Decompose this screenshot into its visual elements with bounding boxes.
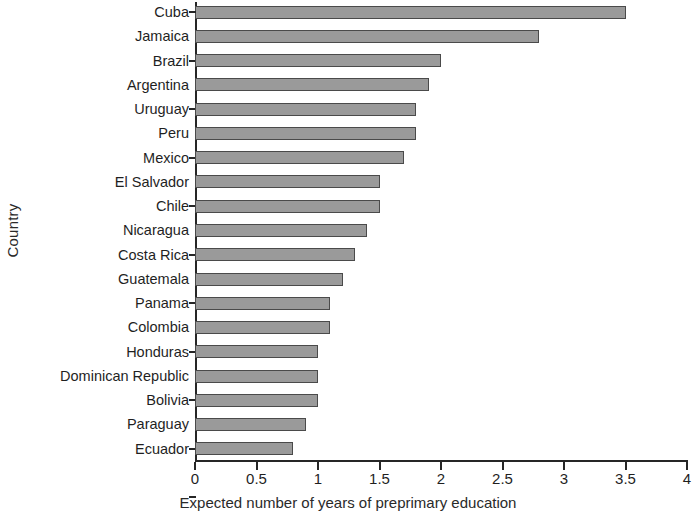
bar xyxy=(195,321,330,334)
x-axis-tick-label: 0 xyxy=(175,470,215,487)
bar-row xyxy=(195,340,687,364)
x-axis-title: Expected number of years of preprimary e… xyxy=(0,494,696,511)
bar xyxy=(195,78,429,91)
y-axis-tick-label: Argentina xyxy=(26,73,189,97)
y-axis-tick-label: Panama xyxy=(26,291,189,315)
x-axis-tick xyxy=(379,462,381,470)
bar xyxy=(195,200,380,213)
x-axis-tick xyxy=(256,462,258,470)
y-axis-tick-label: Jamaica xyxy=(26,24,189,48)
y-axis-tick-label: El Salvador xyxy=(26,170,189,194)
y-axis-tick-label: Bolivia xyxy=(26,388,189,412)
bar xyxy=(195,248,355,261)
x-axis-tick-label: 3 xyxy=(544,470,584,487)
bar xyxy=(195,54,441,67)
y-axis-tick-label: Ecuador xyxy=(26,437,189,461)
bar-row xyxy=(195,364,687,388)
y-axis-tick-label: Nicaragua xyxy=(26,218,189,242)
y-axis-tick-label: Mexico xyxy=(26,146,189,170)
bar xyxy=(195,151,404,164)
x-axis-tick-label: 1 xyxy=(298,470,338,487)
bar xyxy=(195,224,367,237)
x-axis-tick-label: 1.5 xyxy=(360,470,400,487)
bar-chart-figure: Country CubaJamaicaBrazilArgentinaUrugua… xyxy=(0,0,696,522)
bar-row xyxy=(195,170,687,194)
plot-area xyxy=(195,0,687,461)
bar xyxy=(195,103,416,116)
bar-row xyxy=(195,291,687,315)
bar xyxy=(195,345,318,358)
bar xyxy=(195,273,343,286)
bar-row xyxy=(195,315,687,339)
x-axis-tick xyxy=(440,462,442,470)
bar-row xyxy=(195,97,687,121)
bar-row xyxy=(195,24,687,48)
y-axis-title-label: Country xyxy=(5,204,22,258)
y-axis-title: Country xyxy=(0,0,26,461)
bar xyxy=(195,127,416,140)
y-axis-tick-label: Honduras xyxy=(26,340,189,364)
y-axis-tick-label: Cuba xyxy=(26,0,189,24)
bar-row xyxy=(195,267,687,291)
x-axis-tick-label: 2.5 xyxy=(483,470,523,487)
x-axis-tick xyxy=(317,462,319,470)
bar xyxy=(195,30,539,43)
bar-row xyxy=(195,218,687,242)
bar xyxy=(195,370,318,383)
bar xyxy=(195,394,318,407)
y-axis-tick-label: Uruguay xyxy=(26,97,189,121)
x-axis-tick xyxy=(625,462,627,470)
bar-row xyxy=(195,412,687,436)
y-axis-tick-label: Paraguay xyxy=(26,412,189,436)
bar xyxy=(195,6,626,19)
bar-row xyxy=(195,146,687,170)
bar-row xyxy=(195,243,687,267)
y-axis-tick-label: Colombia xyxy=(26,315,189,339)
x-axis-tick xyxy=(563,462,565,470)
y-axis-tick-label: Costa Rica xyxy=(26,243,189,267)
x-axis-title-label: Expected number of years of preprimary e… xyxy=(180,494,517,511)
x-axis-tick xyxy=(194,462,196,470)
y-axis-tick-label: Brazil xyxy=(26,49,189,73)
bar xyxy=(195,175,380,188)
bar-row xyxy=(195,388,687,412)
y-axis-tick-label: Guatemala xyxy=(26,267,189,291)
y-axis-tick-label: Chile xyxy=(26,194,189,218)
x-axis-tick xyxy=(502,462,504,470)
bar-row xyxy=(195,121,687,145)
x-axis-tick-label: 0.5 xyxy=(237,470,277,487)
y-axis-tick xyxy=(189,11,196,13)
bar-row xyxy=(195,49,687,73)
bar xyxy=(195,297,330,310)
y-axis-tick-label: Dominican Republic xyxy=(26,364,189,388)
y-axis-tick-label: Peru xyxy=(26,121,189,145)
bar xyxy=(195,442,293,455)
x-axis-tick-label: 4 xyxy=(667,470,696,487)
x-axis-tick-label: 3.5 xyxy=(606,470,646,487)
bar-row xyxy=(195,437,687,461)
bar-row xyxy=(195,0,687,24)
bar-row xyxy=(195,194,687,218)
bar xyxy=(195,418,306,431)
x-axis-tick xyxy=(686,462,688,470)
x-axis-tick-label: 2 xyxy=(421,470,461,487)
bar-row xyxy=(195,73,687,97)
